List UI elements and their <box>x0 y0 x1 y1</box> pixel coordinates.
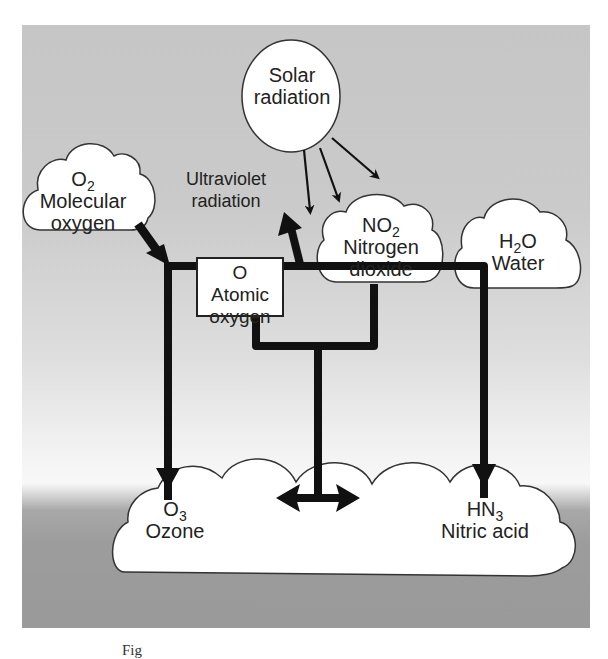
o3-name: Ozone <box>140 520 210 542</box>
o2-formula: O <box>71 168 87 190</box>
o2-label: O2 Molecular oxygen <box>28 168 138 234</box>
o3-formula: O <box>163 498 179 520</box>
solar-label-line2: radiation <box>252 86 332 108</box>
atomic-o-name2: oxygen <box>197 306 283 328</box>
atomic-o-formula: O <box>197 262 283 284</box>
o2-name2: oxygen <box>28 212 138 234</box>
no2-name2: dioxide <box>326 258 436 280</box>
hn3-label: HN3 Nitric acid <box>430 498 540 542</box>
o2-inflow-arrow <box>138 224 170 266</box>
h2o-formula: H <box>499 230 513 252</box>
uv-label-line1: Ultraviolet <box>176 168 276 190</box>
figure-caption: Fig <box>122 642 142 659</box>
no2-label: NO2 Nitrogen dioxide <box>326 214 436 280</box>
atomic-o-name: Atomic <box>197 284 283 306</box>
h2o-name: Water <box>466 252 570 274</box>
ultraviolet-radiation-label: Ultraviolet radiation <box>176 168 276 212</box>
atomic-oxygen-label: O Atomic oxygen <box>197 262 283 328</box>
solar-label-line1: Solar <box>252 64 332 86</box>
o2-name: Molecular <box>28 190 138 212</box>
h2o-formula-tail: O <box>521 230 537 252</box>
hn3-formula: HN <box>467 498 496 520</box>
hn3-name: Nitric acid <box>430 520 540 542</box>
o3-label: O3 Ozone <box>140 498 210 542</box>
solar-radiation-label: Solar radiation <box>252 64 332 108</box>
release-up-arrow <box>278 212 302 264</box>
h2o-label: H2O Water <box>466 230 570 274</box>
no2-name: Nitrogen <box>326 236 436 258</box>
uv-label-line2: radiation <box>176 190 276 212</box>
no2-formula: NO <box>362 214 392 236</box>
